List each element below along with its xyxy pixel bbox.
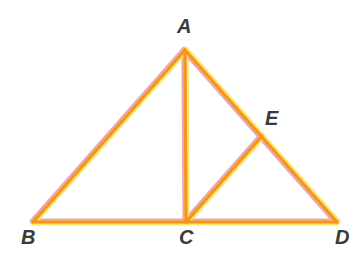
vertex-label-d: D	[335, 227, 349, 247]
segment-AB	[33, 50, 185, 222]
stroke-core-layer	[33, 50, 337, 222]
segment-AC	[185, 50, 186, 222]
vertex-label-e: E	[265, 108, 278, 128]
segment-CE	[186, 136, 262, 222]
vertex-label-b: B	[21, 227, 35, 247]
vertex-label-c: C	[179, 227, 193, 247]
vertex-label-a: A	[177, 16, 191, 36]
geometry-canvas	[0, 0, 364, 261]
geometry-figure: ABCDE	[0, 0, 364, 261]
